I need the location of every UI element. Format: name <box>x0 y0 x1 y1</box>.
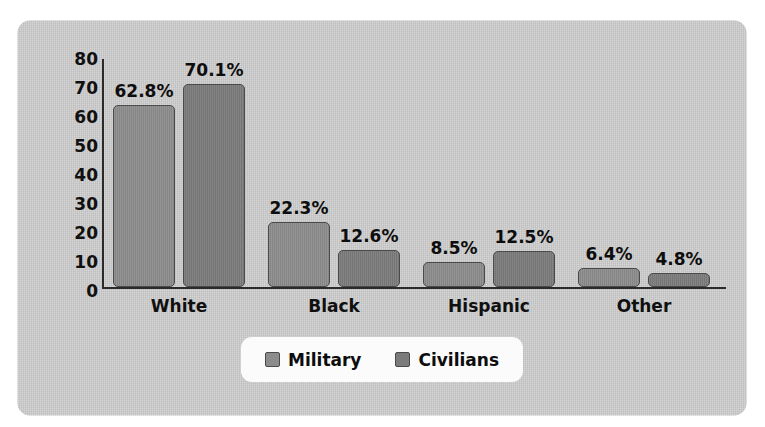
bar-value-label-other-civilians: 4.8% <box>645 251 713 268</box>
bar-value-label-white-civilians: 70.1% <box>180 62 248 79</box>
bar-other-military <box>578 268 640 287</box>
legend-label-military: Military <box>288 350 361 370</box>
bar-value-label-hispanic-military: 8.5% <box>420 240 488 257</box>
bar-black-civilians <box>338 250 400 287</box>
y-axis-tick-50: 50 <box>54 138 98 155</box>
bar-hispanic-civilians <box>493 251 555 287</box>
bar-value-label-black-military: 22.3% <box>265 200 333 217</box>
bar-white-civilians <box>183 84 245 287</box>
bar-other-civilians <box>648 273 710 287</box>
y-axis-tick-70: 70 <box>54 80 98 97</box>
category-label-hispanic: Hispanic <box>423 296 555 316</box>
bar-value-label-hispanic-civilians: 12.5% <box>490 229 558 246</box>
legend-label-civilians: Civilians <box>418 350 499 370</box>
bar-texture <box>269 223 329 286</box>
bar-hispanic-military <box>423 262 485 287</box>
bar-value-label-other-military: 6.4% <box>575 246 643 263</box>
bar-texture <box>579 269 639 286</box>
y-axis-tick-0: 0 <box>54 283 98 300</box>
legend-entry-civilians[interactable]: Civilians <box>395 350 499 370</box>
y-axis-tick-40: 40 <box>54 167 98 184</box>
bar-texture <box>339 251 399 286</box>
bar-value-label-black-civilians: 12.6% <box>335 228 403 245</box>
bar-texture <box>649 274 709 286</box>
legend-entry-military[interactable]: Military <box>265 350 361 370</box>
bar-texture <box>494 252 554 286</box>
chart-legend: MilitaryCivilians <box>241 337 523 382</box>
y-axis-tick-10: 10 <box>54 254 98 271</box>
y-axis-tick-labels: 01020304050607080 <box>54 55 98 295</box>
legend-swatch-military-icon <box>265 352 280 367</box>
category-label-white: White <box>113 296 245 316</box>
y-axis-tick-30: 30 <box>54 196 98 213</box>
category-label-black: Black <box>268 296 400 316</box>
y-axis-tick-60: 60 <box>54 109 98 126</box>
bar-texture <box>424 263 484 286</box>
bar-texture <box>184 85 244 286</box>
bar-black-military <box>268 222 330 287</box>
category-label-other: Other <box>578 296 710 316</box>
plot-area: 62.8%70.1%22.3%12.6%8.5%12.5%6.4%4.8% <box>103 55 726 295</box>
bar-texture <box>114 106 174 286</box>
bar-value-label-white-military: 62.8% <box>110 83 178 100</box>
y-axis-tick-80: 80 <box>54 51 98 68</box>
bar-chart-figure: Percentage 01020304050607080 62.8%70.1%2… <box>0 0 765 427</box>
bar-white-military <box>113 105 175 287</box>
legend-swatch-civilians-icon <box>395 352 410 367</box>
y-axis-tick-20: 20 <box>54 225 98 242</box>
